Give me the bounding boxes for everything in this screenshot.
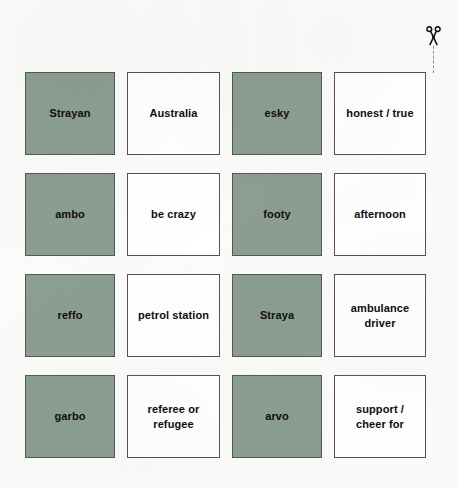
scissors-icon — [419, 25, 447, 47]
flashcard-label: ambo — [55, 207, 85, 222]
flashcard-term[interactable]: esky — [232, 72, 322, 155]
flashcard-definition[interactable]: support / cheer for — [334, 375, 426, 458]
flashcard-label: Strayan — [49, 106, 90, 121]
flashcard-term[interactable]: Straya — [232, 274, 322, 357]
flashcard-label: reffo — [58, 308, 83, 323]
flashcard-definition[interactable]: referee or refugee — [127, 375, 220, 458]
flashcard-label: arvo — [265, 409, 289, 424]
flashcard-term[interactable]: Strayan — [25, 72, 115, 155]
flashcard-definition[interactable]: afternoon — [334, 173, 426, 256]
flashcard-term[interactable]: garbo — [25, 375, 115, 458]
flashcard-definition[interactable]: be crazy — [127, 173, 220, 256]
flashcard-label: be crazy — [151, 207, 196, 222]
flashcard-term[interactable]: ambo — [25, 173, 115, 256]
flashcard-label: garbo — [54, 409, 85, 424]
flashcard-label: petrol station — [138, 308, 209, 323]
flashcard-label: Straya — [260, 308, 294, 323]
cut-marker — [419, 25, 447, 73]
flashcard-definition[interactable]: Australia — [127, 72, 220, 155]
flashcard-term[interactable]: arvo — [232, 375, 322, 458]
flashcard-definition[interactable]: petrol station — [127, 274, 220, 357]
flashcard-label: afternoon — [354, 207, 406, 222]
flashcard-label: support / cheer for — [356, 402, 404, 432]
flashcard-label: honest / true — [346, 106, 413, 121]
flashcard-label: Australia — [150, 106, 198, 121]
flashcard-label: ambulance driver — [351, 301, 409, 331]
flashcard-grid: Strayan Australia esky honest / true amb… — [25, 72, 434, 458]
flashcard-label: referee or refugee — [148, 402, 200, 432]
flashcard-term[interactable]: reffo — [25, 274, 115, 357]
flashcard-term[interactable]: footy — [232, 173, 322, 256]
flashcard-label: footy — [263, 207, 290, 222]
cut-line — [433, 46, 434, 73]
flashcard-definition[interactable]: honest / true — [334, 72, 426, 155]
flashcard-definition[interactable]: ambulance driver — [334, 274, 426, 357]
flashcard-label: esky — [265, 106, 290, 121]
